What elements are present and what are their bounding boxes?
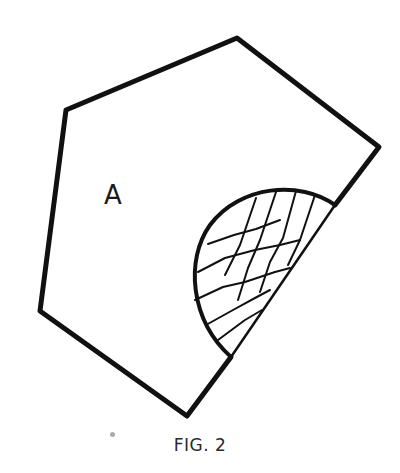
hatch-lines — [195, 191, 315, 340]
region-label-a: A — [104, 180, 122, 210]
figure-caption: FIG. 2 — [0, 435, 400, 455]
semicircle-arc — [195, 190, 335, 357]
figure-canvas: A FIG. 2 — [0, 0, 400, 473]
figure-drawing — [0, 0, 400, 473]
